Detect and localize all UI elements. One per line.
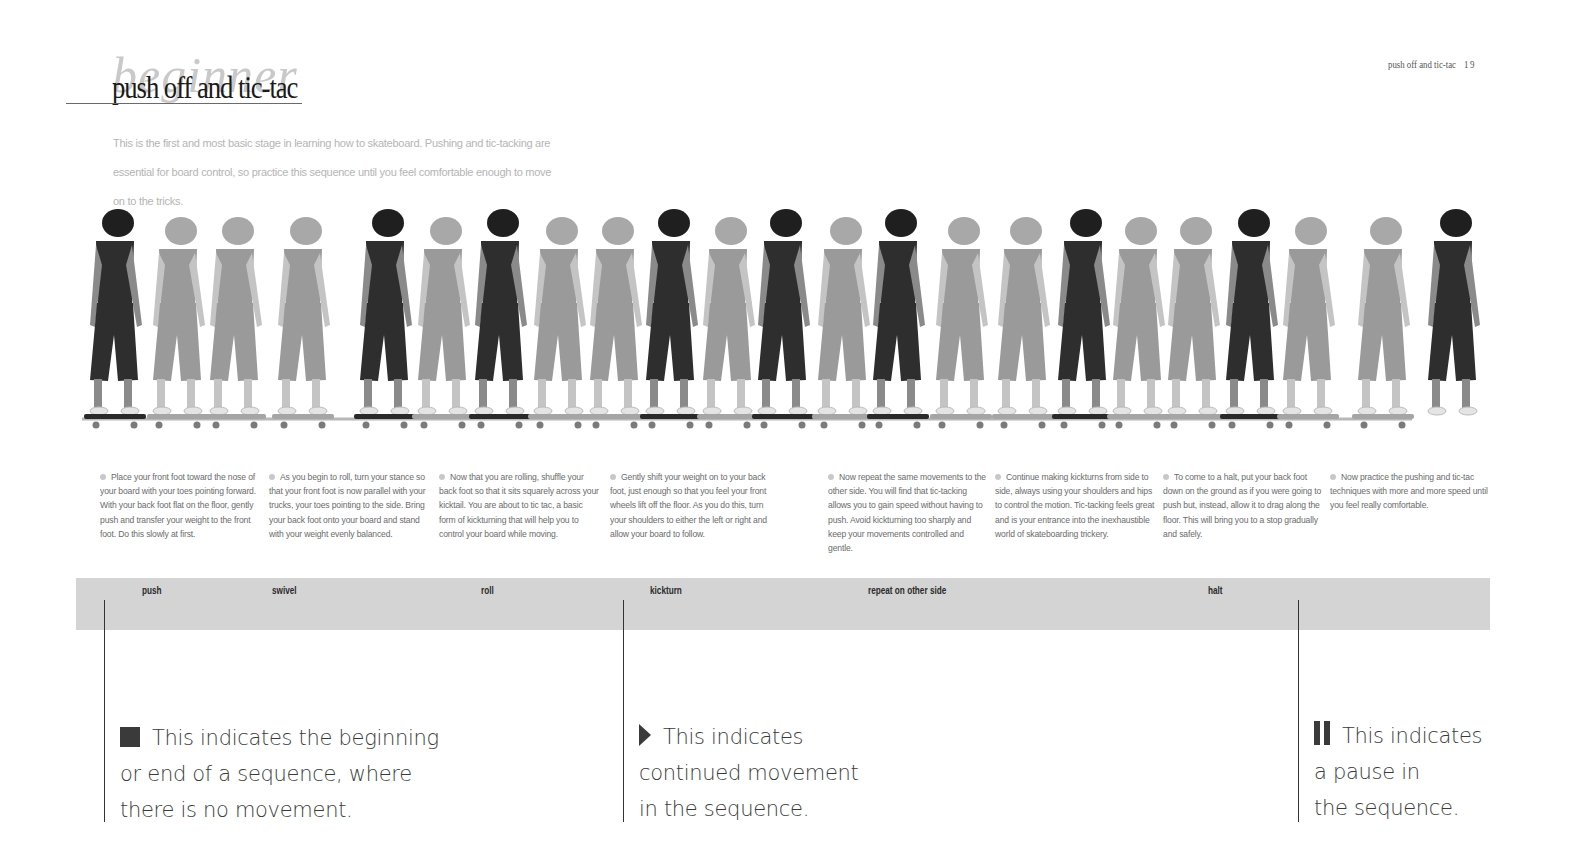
skater-figure [930, 217, 992, 429]
skater-figure [640, 209, 702, 429]
bullet-icon [269, 474, 275, 480]
skater-figure [528, 217, 590, 429]
bullet-icon [610, 474, 616, 480]
skater-sequence-image [82, 195, 1502, 445]
step-8: Now practice the pushing and tic-tac tec… [1330, 470, 1490, 513]
skater-figure [1162, 217, 1224, 429]
skater-figure [1277, 217, 1339, 429]
callout-line-pause [1298, 600, 1299, 822]
skater-figure [1052, 209, 1114, 429]
step-7: To come to a halt, put your back foot do… [1163, 470, 1323, 541]
step-5: Now repeat the same movements to the oth… [828, 470, 988, 555]
sequence-label-bar: push swivel roll kickturn repeat on othe… [76, 578, 1490, 630]
step-2: As you begin to roll, turn your stance s… [269, 470, 429, 541]
step-3: Now that you are rolling, shuffle your b… [439, 470, 599, 541]
skater-figure [469, 209, 531, 429]
skater-figure [697, 217, 759, 429]
bullet-icon [1163, 474, 1169, 480]
page-title: push off and tic-tac [112, 72, 297, 103]
legend-pause: This indicates a pause in the sequence. [1314, 718, 1482, 826]
skater-figure [84, 209, 146, 429]
bullet-icon [439, 474, 445, 480]
skater-figure [1107, 217, 1169, 429]
step-1: Place your front foot toward the nose of… [100, 470, 260, 541]
skater-figure [752, 209, 814, 429]
bullet-icon [828, 474, 834, 480]
skater-figure [204, 217, 266, 429]
skater-figure [1220, 209, 1282, 429]
page-number: 19 [1464, 58, 1476, 70]
skater-figure [992, 217, 1054, 429]
label-push: push [142, 584, 162, 596]
skater-figure [812, 217, 874, 429]
skater-figure [584, 217, 646, 429]
title-underline [66, 103, 302, 104]
skater-figure [272, 217, 334, 429]
stop-square-icon [120, 727, 140, 747]
step-4: Gently shift your weight on to your back… [610, 470, 770, 541]
bullet-icon [995, 474, 1001, 480]
label-repeat-other-side: repeat on other side [868, 584, 946, 596]
callout-line-stop [104, 600, 105, 822]
label-roll: roll [481, 584, 494, 596]
skater-figure [354, 209, 416, 429]
step-descriptions: Place your front foot toward the nose of… [100, 470, 1500, 565]
skater-figure [147, 217, 209, 429]
skater-figure [412, 217, 474, 429]
skater-figure [1352, 217, 1414, 429]
running-head: push off and tic-tac19 [1388, 58, 1476, 70]
bullet-icon [1330, 474, 1336, 480]
label-kickturn: kickturn [650, 584, 682, 596]
label-halt: halt [1208, 584, 1223, 596]
running-head-title: push off and tic-tac [1388, 58, 1456, 70]
step-6: Continue making kickturns from side to s… [995, 470, 1155, 541]
play-triangle-icon [639, 724, 651, 746]
label-swivel: swivel [272, 584, 297, 596]
callout-line-play [623, 600, 624, 822]
legend-play: This indicates continued movement in the… [639, 719, 859, 827]
skater-figure [867, 209, 929, 429]
photo-sequence [82, 195, 1502, 445]
pause-bars-icon [1314, 721, 1330, 745]
skater-figure [1428, 209, 1480, 415]
bullet-icon [100, 474, 106, 480]
legend-stop: This indicates the beginning or end of a… [120, 720, 439, 828]
